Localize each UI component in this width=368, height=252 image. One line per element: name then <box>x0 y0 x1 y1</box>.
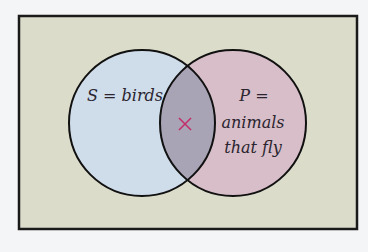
set-p-label-line1: P = <box>238 86 268 105</box>
venn-diagram: S = birds P = animals that fly <box>0 0 368 252</box>
venn-diagram-canvas: S = birds P = animals that fly <box>0 0 368 252</box>
set-p-label-line2: animals <box>222 113 285 132</box>
set-s-label: S = birds <box>87 86 163 105</box>
set-p-label-line3: that fly <box>224 138 282 157</box>
